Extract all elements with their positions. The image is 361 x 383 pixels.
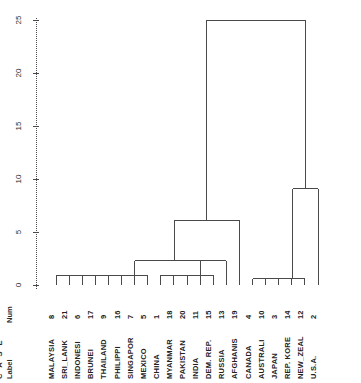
leaf-number: 12 <box>296 311 305 319</box>
leaf-label: NEW_ZEAL <box>296 336 305 379</box>
dendrogram-page: H I C I C A L C L U S T E R A N A L Y S … <box>0 0 361 383</box>
leaf-label: AUSTRALI <box>257 339 266 379</box>
leaf-number: 7 <box>126 315 135 319</box>
leaf-number: 16 <box>113 311 122 319</box>
leaf-number: 18 <box>165 311 174 319</box>
leaf-number: 2 <box>309 315 318 319</box>
leaf-label: INDIA <box>191 358 200 379</box>
leaf-label: DEM. REP. <box>204 340 213 379</box>
y-tick-0: 0 <box>14 283 23 287</box>
leaf-number: 17 <box>86 311 95 319</box>
leaf-number: 8 <box>47 315 56 319</box>
leaf-number: 19 <box>230 311 239 319</box>
leaf-label: AFGHANIS <box>230 338 239 379</box>
leaf-number: 4 <box>244 315 253 319</box>
leaf-label: REP. KORE <box>283 337 292 379</box>
leaf-label: CHINA <box>152 354 161 379</box>
leaf-number: 11 <box>191 311 200 319</box>
leaf-label: CANADA <box>244 345 253 379</box>
leaf-number: 15 <box>204 311 213 319</box>
leaf-label: U.S.A. <box>309 356 318 379</box>
leaf-label: SINGAPOR <box>126 337 135 379</box>
leaf-label: RUSSIA <box>217 349 226 379</box>
header-case: C A S E <box>0 338 4 379</box>
leaf-number: 20 <box>178 311 187 319</box>
leaf-label: INDONESI <box>73 341 82 379</box>
leaf-number: 21 <box>60 311 69 319</box>
header-label: Label <box>5 359 14 379</box>
leaf-number: 9 <box>99 315 108 319</box>
leaf-label: THAILAND <box>99 339 108 379</box>
leaf-number: 6 <box>73 315 82 319</box>
y-tick-10: 10 <box>14 175 23 184</box>
y-tick-25: 25 <box>14 16 23 25</box>
leaf-label: JAPAN <box>270 353 279 379</box>
leaf-number: 5 <box>139 315 148 319</box>
leaf-label: PAKISTAN <box>178 340 187 379</box>
dendrogram-svg <box>0 0 361 300</box>
leaf-label-table: C A S E Label Num MALAYSIA8SRI_LANK21IND… <box>0 296 361 383</box>
y-tick-5: 5 <box>14 230 23 234</box>
leaf-label: PHILIPPI <box>113 346 122 379</box>
dendrogram-plot <box>0 0 361 300</box>
leaf-label: MALAYSIA <box>47 339 56 379</box>
leaf-label: BRUNEI <box>86 349 95 379</box>
leaf-label: SRI_LANK <box>60 340 69 379</box>
header-num: Num <box>5 306 14 323</box>
leaf-label: MYANMAR <box>165 339 174 379</box>
leaf-number: 1 <box>152 315 161 319</box>
leaf-number: 3 <box>270 315 279 319</box>
y-tick-20: 20 <box>14 69 23 78</box>
leaf-label: MEXICO <box>139 348 148 379</box>
leaf-number: 13 <box>217 311 226 319</box>
leaf-number: 10 <box>257 311 266 319</box>
y-tick-15: 15 <box>14 122 23 131</box>
leaf-number: 14 <box>283 311 292 319</box>
